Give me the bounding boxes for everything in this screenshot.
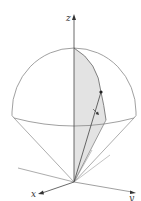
x-axis [42, 182, 74, 193]
z-axis-arrowhead [72, 14, 76, 20]
y-axis [74, 182, 132, 192]
x-axis-arrowhead [38, 191, 44, 195]
hemisphere-cone-diagram: z x y [0, 0, 141, 201]
z-axis-label: z [65, 13, 71, 23]
point-marker [99, 90, 102, 93]
hemisphere-right-edge [134, 112, 136, 118]
x-axis-label: x [31, 189, 36, 199]
x-axis-back-extension [18, 168, 74, 182]
y-axis-label: y [128, 193, 135, 201]
hemisphere-left-edge [12, 112, 14, 118]
cone-left-line [14, 118, 74, 182]
